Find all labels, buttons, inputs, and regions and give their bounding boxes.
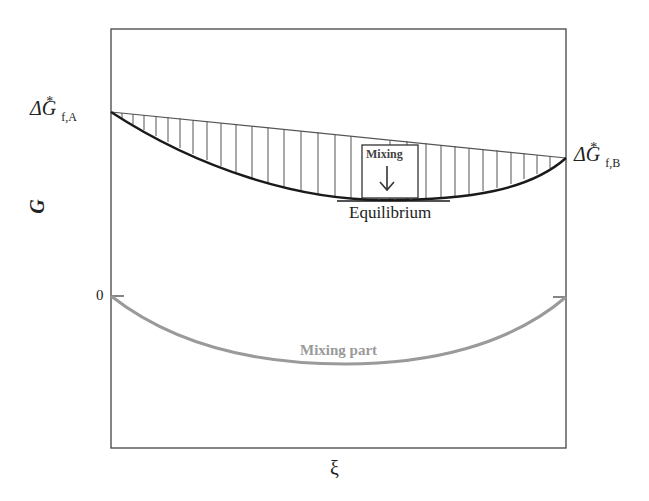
zero-tick-label: 0 bbox=[96, 287, 104, 304]
subscript: f,B bbox=[605, 156, 620, 170]
superscript: * bbox=[46, 94, 53, 109]
delta-g-f-a-label: ΔG*f,A bbox=[30, 97, 79, 120]
superscript: * bbox=[590, 140, 597, 155]
y-axis-label: G bbox=[26, 199, 49, 213]
x-axis-label: ξ bbox=[330, 457, 339, 480]
gibbs-energy-diagram bbox=[0, 0, 649, 501]
gibbs-curve bbox=[111, 112, 566, 200]
subscript: f,A bbox=[61, 110, 77, 124]
mixing-part-label: Mixing part bbox=[300, 342, 377, 359]
delta-g-f-b-label: ΔG*f,B bbox=[574, 143, 622, 166]
equilibrium-label: Equilibrium bbox=[349, 203, 431, 223]
hatched-region bbox=[122, 113, 550, 200]
mixing-box-label: Mixing bbox=[366, 147, 403, 162]
plot-frame bbox=[111, 29, 566, 448]
